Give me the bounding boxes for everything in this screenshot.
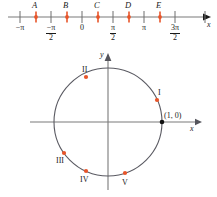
circle-point-V-dot [123, 171, 127, 175]
point-one-zero-dot [160, 120, 165, 125]
point-label-D: D [125, 1, 131, 10]
tick-label-3pi-over-2: 3π 2 [165, 24, 185, 42]
number-line-group [8, 11, 211, 23]
tick-label-3pi-over-2-denominator: 2 [170, 34, 180, 42]
marked-point-A [34, 12, 38, 23]
tick-label-neg-pi-over-2: −π 2 [42, 24, 60, 42]
circle-point-IV-dot [84, 169, 88, 173]
circle-point-IV-label: IV [80, 176, 88, 184]
number-line-axis-label: x [207, 21, 211, 29]
circle-point-III-dot [62, 151, 66, 155]
point-label-B: B [63, 1, 68, 10]
point-one-zero-label: (1, 0) [164, 112, 181, 120]
circle-point-I-label: I [158, 89, 161, 97]
point-label-A: A [32, 1, 37, 10]
tick-label-neg-pi: −π [11, 24, 29, 32]
circle-point-II-dot [84, 75, 88, 79]
point-label-C: C [94, 1, 100, 10]
circle-point-III-label: III [56, 157, 64, 165]
tick-label-pi-over-2-denominator: 2 [110, 34, 116, 42]
marked-point-B [65, 12, 69, 23]
circle-y-axis-label: y [100, 51, 104, 59]
circle-point-V-label: V [122, 179, 128, 187]
point-label-E: E [156, 1, 161, 10]
tick-label-zero: 0 [73, 24, 91, 32]
circle-y-axis-arrowhead [105, 53, 112, 61]
circle-x-axis-label: x [190, 125, 194, 133]
circle-point-II-label: II [82, 66, 87, 74]
marked-point-E [158, 12, 162, 23]
circle-point-I-dot [155, 98, 159, 102]
marked-point-C [96, 12, 100, 23]
marked-point-D [127, 12, 131, 23]
tick-label-neg-pi-over-2-denominator: 2 [46, 34, 57, 42]
tick-label-pi: π [135, 24, 153, 32]
unit-circle-group [30, 53, 202, 190]
circle-x-axis-arrowhead [195, 119, 202, 125]
tick-label-pi-over-2: π 2 [104, 24, 122, 42]
